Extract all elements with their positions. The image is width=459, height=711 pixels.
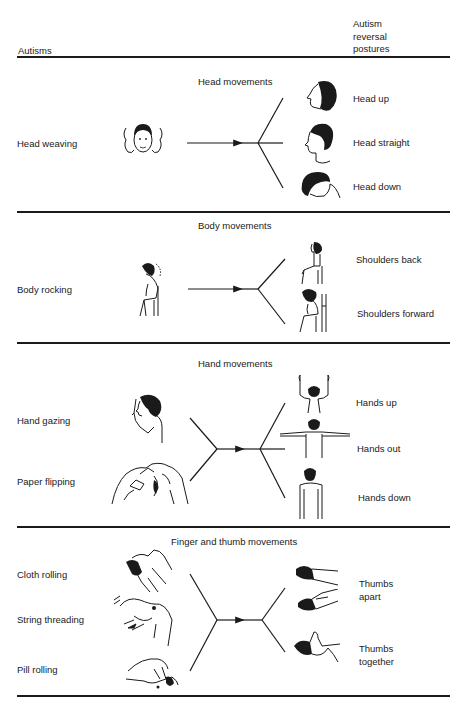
section-title-head: Head movements (198, 76, 272, 88)
posture-label-shoulders-back: Shoulders back (356, 254, 421, 266)
thumbs-apart-lower-hand-icon (296, 589, 342, 617)
thumbs-apart-line-1: Thumbs (359, 578, 393, 591)
hands-out-figure-icon (278, 418, 352, 460)
posture-label-head-up: Head up (353, 93, 389, 105)
posture-label-head-straight: Head straight (353, 137, 410, 149)
autism-label-paper-flipping: Paper flipping (17, 476, 75, 488)
autism-label-string-threading: String threading (17, 614, 84, 626)
hands-down-figure-icon (296, 467, 326, 523)
posture-label-head-down: Head down (353, 181, 401, 193)
posture-label-hands-out: Hands out (357, 443, 400, 455)
head-weaving-figure-icon (120, 120, 166, 160)
shoulders-forward-figure-icon (296, 288, 330, 334)
section-divider-3 (17, 526, 450, 528)
hands-up-figure-icon (296, 373, 332, 413)
connector-diagram (0, 0, 459, 711)
posture-label-hands-up: Hands up (356, 397, 397, 409)
posture-label-shoulders-forward: Shoulders forward (357, 308, 434, 320)
section-title-finger-thumb: Finger and thumb movements (171, 536, 297, 548)
bottom-divider (17, 695, 450, 697)
head-straight-figure-icon (302, 122, 336, 166)
autism-label-pill-rolling: Pill rolling (17, 664, 58, 676)
autism-label-head-weaving: Head weaving (17, 138, 77, 150)
thumbs-together-hand-icon (292, 630, 342, 664)
body-rocking-figure-icon (136, 260, 166, 320)
paper-flipping-hands-icon (110, 460, 192, 506)
posture-label-thumbs-apart: Thumbs apart (359, 578, 393, 603)
autism-label-cloth-rolling: Cloth rolling (17, 569, 67, 581)
posture-label-hands-down: Hands down (358, 492, 411, 504)
section-divider-2 (17, 342, 450, 344)
thumbs-apart-line-2: apart (359, 591, 393, 604)
autism-label-body-rocking: Body rocking (17, 284, 72, 296)
thumbs-together-line-1: Thumbs (359, 643, 394, 656)
section-title-hand: Hand movements (198, 358, 272, 370)
pill-rolling-hand-icon (124, 655, 180, 691)
hand-gazing-figure-icon (128, 393, 168, 445)
cloth-rolling-hands-icon (122, 548, 172, 596)
autism-label-hand-gazing: Hand gazing (17, 415, 70, 427)
thumbs-together-line-2: together (359, 656, 394, 669)
shoulders-back-figure-icon (300, 240, 328, 286)
posture-label-thumbs-together: Thumbs together (359, 643, 394, 668)
section-title-body: Body movements (198, 220, 271, 232)
head-up-figure-icon (304, 78, 340, 114)
section-divider-1 (17, 211, 450, 213)
thumbs-apart-upper-hand-icon (294, 563, 340, 587)
string-threading-hands-icon (112, 594, 174, 646)
head-down-figure-icon (296, 170, 344, 202)
